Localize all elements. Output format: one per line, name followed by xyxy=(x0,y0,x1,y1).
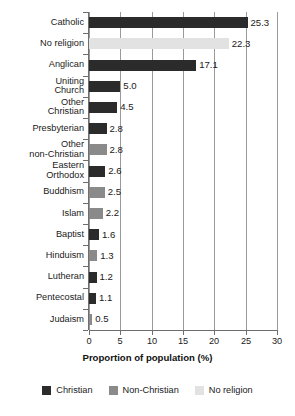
bar xyxy=(89,272,97,283)
bar-value-label: 2.5 xyxy=(108,186,121,197)
bar-value-label: 22.3 xyxy=(232,38,251,49)
bar-value-label: 1.6 xyxy=(102,229,115,240)
y-axis-tick xyxy=(83,139,88,140)
category-label: Presbyterian xyxy=(0,124,84,134)
legend-swatch xyxy=(109,386,118,395)
bar-value-label: 2.2 xyxy=(106,207,119,218)
y-axis-tick xyxy=(83,12,88,13)
category-label: Lutheran xyxy=(0,272,84,282)
bar xyxy=(89,250,97,261)
category-label: Anglican xyxy=(0,60,84,70)
legend-label: Christian xyxy=(56,385,92,395)
x-axis-tick xyxy=(152,331,153,335)
category-label: Pentecostal xyxy=(0,293,84,303)
category-label: Eastern Orthodox xyxy=(0,161,84,180)
category-label: Uniting Church xyxy=(0,77,84,96)
category-label: Hinduism xyxy=(0,251,84,261)
y-axis-tick xyxy=(83,288,88,289)
legend-swatch xyxy=(195,386,204,395)
y-axis-tick xyxy=(83,224,88,225)
bar-value-label: 2.6 xyxy=(108,165,121,176)
x-axis-tick-label: 20 xyxy=(202,336,226,346)
y-axis-tick xyxy=(83,182,88,183)
x-axis-tick-label: 15 xyxy=(171,336,195,346)
bar xyxy=(89,229,99,240)
legend-item: Christian xyxy=(42,385,92,395)
bar xyxy=(89,293,96,304)
bar-value-label: 1.3 xyxy=(100,250,113,261)
y-axis-tick xyxy=(83,309,88,310)
y-axis-tick xyxy=(83,118,88,119)
x-axis-tick xyxy=(89,331,90,335)
x-axis-tick xyxy=(120,331,121,335)
x-axis-tick-label: 0 xyxy=(77,336,101,346)
religion-bar-chart: CatholicNo religionAnglicanUniting Churc… xyxy=(0,0,295,416)
legend-item: Non-Christian xyxy=(109,385,179,395)
bar-value-label: 1.2 xyxy=(100,271,113,282)
bar-value-label: 2.8 xyxy=(110,144,123,155)
category-label: Other non-Christian xyxy=(0,140,84,159)
bar-value-label: 17.1 xyxy=(199,59,218,70)
bar xyxy=(89,81,120,92)
x-axis-tick-label: 5 xyxy=(108,336,132,346)
bar xyxy=(89,60,196,71)
plot-wrapper: CatholicNo religionAnglicanUniting Churc… xyxy=(0,0,295,345)
category-label: Baptist xyxy=(0,230,84,240)
x-axis-tick xyxy=(246,331,247,335)
bar xyxy=(89,17,248,28)
y-axis-tick xyxy=(83,203,88,204)
bar xyxy=(89,187,105,198)
bar xyxy=(89,208,103,219)
bar-value-label: 25.3 xyxy=(251,17,270,28)
x-axis-title: Proportion of population (%) xyxy=(0,352,295,363)
bar xyxy=(89,123,107,134)
y-axis-tick xyxy=(83,266,88,267)
y-axis-tick xyxy=(83,245,88,246)
category-label: Judaism xyxy=(0,315,84,325)
y-axis-tick xyxy=(83,54,88,55)
bar-value-label: 2.8 xyxy=(110,123,123,134)
bar-value-label: 5.0 xyxy=(123,80,136,91)
bar xyxy=(89,144,107,155)
y-axis-tick xyxy=(83,76,88,77)
chart-legend: ChristianNon-ChristianNo religion xyxy=(0,382,295,398)
bar-value-label: 1.1 xyxy=(99,292,112,303)
gridline xyxy=(277,12,278,330)
x-axis-tick xyxy=(277,331,278,335)
category-label: No religion xyxy=(0,39,84,49)
legend-label: Non-Christian xyxy=(123,385,179,395)
category-label: Other Christian xyxy=(0,98,84,117)
x-axis-tick-label: 10 xyxy=(140,336,164,346)
y-axis-tick xyxy=(83,97,88,98)
gridline xyxy=(246,12,247,330)
bar-value-label: 4.5 xyxy=(120,101,133,112)
legend-label: No religion xyxy=(209,385,253,395)
x-axis-tick xyxy=(214,331,215,335)
y-axis-tick xyxy=(83,160,88,161)
bar xyxy=(89,102,117,113)
bar xyxy=(89,314,92,325)
bar-value-label: 0.5 xyxy=(95,313,108,324)
x-axis-tick-label: 30 xyxy=(265,336,289,346)
y-axis-tick xyxy=(83,33,88,34)
category-label: Buddhism xyxy=(0,187,84,197)
x-axis-tick xyxy=(183,331,184,335)
bar xyxy=(89,38,229,49)
category-label: Catholic xyxy=(0,18,84,28)
y-axis-tick xyxy=(83,330,88,331)
category-label: Islam xyxy=(0,209,84,219)
legend-item: No religion xyxy=(195,385,253,395)
legend-swatch xyxy=(42,386,51,395)
category-axis-labels: CatholicNo religionAnglicanUniting Churc… xyxy=(0,12,84,330)
bar xyxy=(89,166,105,177)
x-axis-tick-label: 25 xyxy=(234,336,258,346)
